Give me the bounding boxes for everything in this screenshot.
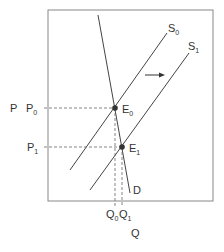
plot-frame xyxy=(48,10,213,201)
q-axis-label: Q xyxy=(131,227,140,239)
d-label: D xyxy=(133,184,141,196)
supply-curve-s0 xyxy=(70,33,167,170)
supply-demand-diagram: S0 S1 D E0 E1 P P0 P1 Q0 Q1 Q xyxy=(0,0,224,252)
q1-label: Q1 xyxy=(119,208,132,222)
q0-label: Q0 xyxy=(106,208,119,222)
point-e1 xyxy=(119,144,125,150)
point-e0 xyxy=(112,105,118,111)
p1-label: P1 xyxy=(27,141,38,155)
arrow-head-icon xyxy=(159,73,165,78)
e1-label: E1 xyxy=(129,142,140,156)
e0-label: E0 xyxy=(122,103,133,117)
s1-label: S1 xyxy=(188,40,199,54)
p0-label: P0 xyxy=(26,102,37,116)
p-axis-label: P xyxy=(10,102,17,114)
s0-label: S0 xyxy=(168,22,179,36)
